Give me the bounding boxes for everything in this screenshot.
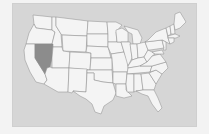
state-wisconsin[interactable] <box>116 28 128 42</box>
state-maryland[interactable] <box>152 50 164 54</box>
state-mississippi[interactable] <box>126 74 134 92</box>
state-colorado[interactable] <box>69 52 91 70</box>
state-wyoming[interactable] <box>62 35 87 52</box>
state-maine[interactable] <box>174 12 186 30</box>
state-arizona[interactable] <box>44 67 69 92</box>
state-kansas[interactable] <box>90 58 112 70</box>
state-florida[interactable] <box>136 90 162 112</box>
state-arkansas[interactable] <box>113 72 127 84</box>
state-montana[interactable] <box>56 17 88 36</box>
state-north-dakota[interactable] <box>87 21 108 34</box>
state-new-mexico[interactable] <box>68 68 87 93</box>
us-map <box>0 0 209 134</box>
state-south-dakota[interactable] <box>87 34 108 47</box>
